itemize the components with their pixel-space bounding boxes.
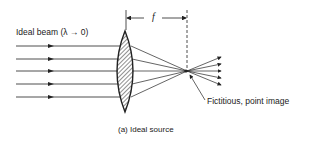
beam-label: Ideal beam (λ → 0) <box>16 27 88 37</box>
image-pointer <box>190 75 205 100</box>
diagram-canvas <box>0 0 315 144</box>
diverging-rays <box>187 57 221 85</box>
focal-length-label: f <box>152 11 155 22</box>
incoming-rays <box>16 46 121 97</box>
figure-caption: (a) Ideal source <box>118 125 174 134</box>
ray-arrowheads <box>48 44 54 99</box>
image-label: Fictitious, point image <box>207 96 289 106</box>
lens <box>117 31 133 112</box>
focal-point <box>184 69 187 72</box>
converging-rays <box>131 46 187 97</box>
